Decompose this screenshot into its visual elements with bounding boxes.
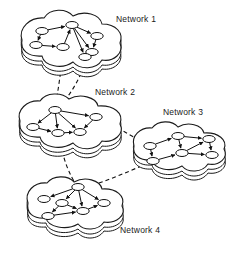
node-n1a[interactable]	[36, 28, 48, 35]
node-n1e[interactable]	[91, 33, 103, 40]
node-n4c[interactable]	[56, 200, 68, 207]
node-n1d[interactable]	[57, 44, 69, 51]
network-group-network3	[133, 122, 225, 180]
node-n2d[interactable]	[74, 129, 86, 136]
node-n3b[interactable]	[172, 133, 184, 140]
label-network3: Network 3	[163, 107, 203, 117]
node-n1g[interactable]	[79, 54, 91, 61]
network-group-network4	[27, 177, 123, 238]
node-n4f[interactable]	[98, 200, 110, 207]
label-network4: Network 4	[120, 225, 160, 235]
node-n3f[interactable]	[206, 152, 218, 159]
node-n4d[interactable]	[42, 213, 54, 220]
node-n3d[interactable]	[176, 150, 188, 157]
network-diagram: Network 1Network 2Network 3Network 4	[0, 0, 241, 253]
node-n4e[interactable]	[77, 208, 89, 215]
network-layer	[19, 10, 225, 238]
node-n4b[interactable]	[38, 196, 50, 203]
network-group-network1	[21, 10, 121, 77]
label-network1: Network 1	[116, 14, 156, 24]
node-n4a[interactable]	[72, 184, 84, 191]
label-network2: Network 2	[95, 87, 135, 97]
node-n3c[interactable]	[147, 158, 159, 165]
node-n2c[interactable]	[52, 130, 64, 137]
network-group-network2	[19, 94, 121, 158]
node-n1c[interactable]	[30, 42, 42, 49]
node-n3e[interactable]	[203, 136, 215, 143]
node-n1b[interactable]	[66, 22, 78, 29]
node-n2e[interactable]	[90, 114, 102, 121]
node-n2b[interactable]	[27, 124, 39, 131]
node-n3a[interactable]	[144, 143, 156, 150]
node-n2a[interactable]	[49, 107, 61, 114]
diagram-canvas: Network 1Network 2Network 3Network 4	[0, 0, 241, 253]
